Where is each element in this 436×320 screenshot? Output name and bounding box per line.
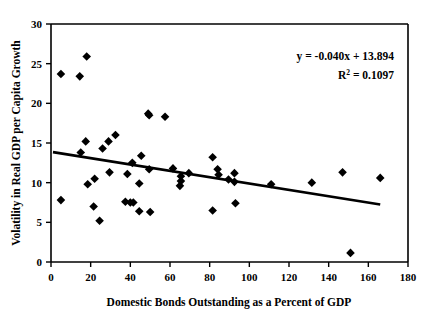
x-tick-label: 0 xyxy=(48,271,54,283)
x-tick-label: 120 xyxy=(281,271,298,283)
x-tick-label: 140 xyxy=(320,271,337,283)
x-tick-label: 160 xyxy=(360,271,377,283)
y-tick-label: 15 xyxy=(31,137,43,149)
x-tick-label: 40 xyxy=(125,271,137,283)
x-axis-title: Domestic Bonds Outstanding as a Percent … xyxy=(107,296,352,309)
x-tick-label: 180 xyxy=(400,271,417,283)
x-tick-label: 60 xyxy=(165,271,177,283)
y-tick-label: 10 xyxy=(31,177,43,189)
x-tick-label: 100 xyxy=(241,271,258,283)
x-tick-label: 20 xyxy=(85,271,97,283)
r-squared-value: = 0.1097 xyxy=(350,69,394,81)
y-tick-label: 20 xyxy=(31,97,43,109)
y-tick-label: 30 xyxy=(31,18,43,30)
y-tick-label: 0 xyxy=(37,256,43,268)
y-tick-label: 25 xyxy=(31,58,43,70)
x-tick-label: 80 xyxy=(204,271,216,283)
y-tick-label: 5 xyxy=(37,216,43,228)
y-axis-title: Volatility in Real GDP per Capita Growth xyxy=(10,40,23,246)
chart-canvas: 051015202530 020406080100120140160180 y … xyxy=(0,0,436,320)
scatter-chart-figure: 051015202530 020406080100120140160180 y … xyxy=(0,0,436,320)
regression-equation-label: y = -0.040x + 13.894 xyxy=(297,50,395,63)
